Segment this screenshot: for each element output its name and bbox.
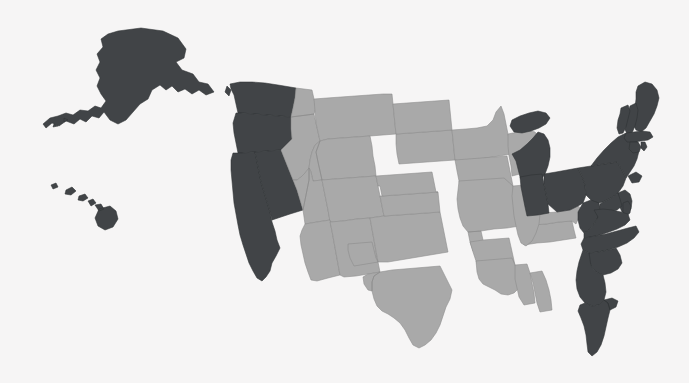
state-hi[interactable]: Hawaii: [51, 183, 118, 230]
state-tx[interactable]: Texas: [363, 266, 452, 348]
state-co[interactable]: Colorado: [322, 176, 384, 222]
state-mt[interactable]: Montana: [314, 94, 396, 141]
us-map-svg: AlaskaHawaiiWashingtonOregonCaliforniaNe…: [0, 0, 689, 383]
state-sd[interactable]: South Dakota: [396, 130, 455, 164]
state-fl[interactable]: Florida: [578, 298, 618, 356]
state-ms[interactable]: Mississippi: [515, 264, 535, 305]
state-wa[interactable]: Washington: [225, 82, 296, 117]
states-layer: AlaskaHawaiiWashingtonOregonCaliforniaNe…: [43, 28, 659, 356]
state-ma[interactable]: Massachusetts: [624, 131, 653, 142]
state-ak[interactable]: Alaska: [43, 28, 214, 128]
state-oh[interactable]: Ohio: [544, 168, 586, 212]
us-map-container: AlaskaHawaiiWashingtonOregonCaliforniaNe…: [0, 0, 689, 383]
state-ne[interactable]: Nebraska: [376, 172, 438, 196]
state-wy[interactable]: Wyoming: [309, 136, 376, 181]
state-mn[interactable]: Minnesota: [452, 106, 512, 161]
state-nd[interactable]: North Dakota: [393, 100, 452, 134]
state-la[interactable]: Louisiana: [476, 258, 521, 295]
state-ri[interactable]: Rhode Island: [641, 142, 647, 151]
